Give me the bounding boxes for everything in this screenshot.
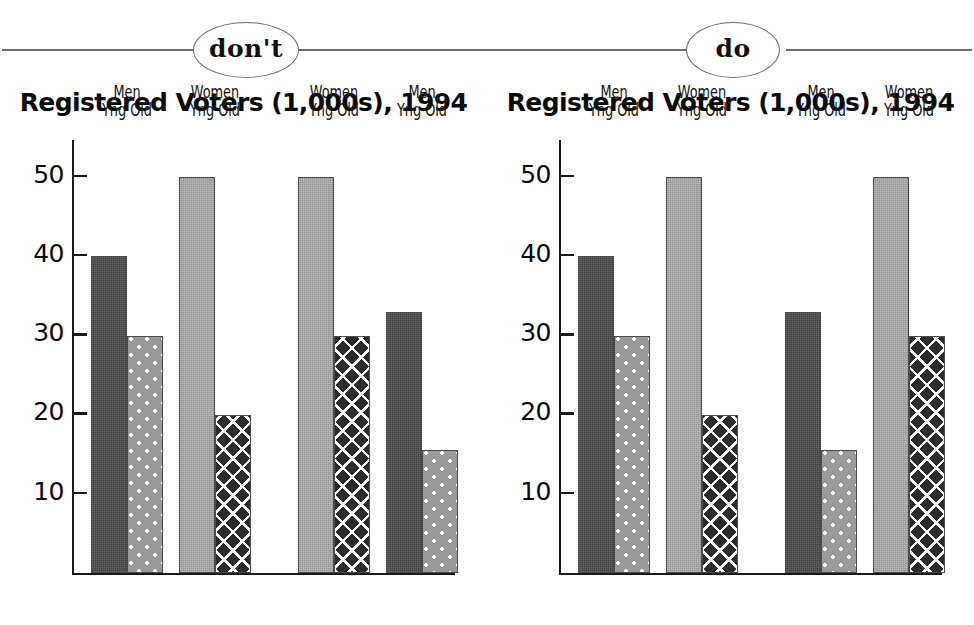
x-axis [72,573,455,575]
cluster-age-label: Yng Old [565,102,662,120]
rule-segment-left [2,49,198,51]
bar [298,177,334,572]
y-axis-tick-label: 20 [520,397,551,426]
y-axis-tick-label: 30 [520,318,551,347]
cluster-age-label: Yng Old [166,102,263,120]
y-axis-tick: 50 [561,175,574,177]
cluster-header: MenYng Old [772,84,869,120]
cluster-age-label: Yng Old [860,102,957,120]
rule-segment-right [786,49,972,51]
bar [127,336,163,573]
cluster-header: WomenYng Old [653,84,750,120]
cluster-age-label: Yng Old [373,102,470,120]
y-axis [72,140,74,575]
y-axis-tick: 30 [74,333,87,335]
y-axis-tick: 10 [74,492,87,494]
y-axis-tick-label: 30 [33,318,64,347]
cluster-age-label: Yng Old [285,102,382,120]
cluster-header: WomenYng Old [285,84,382,120]
cluster-age-label: Yng Old [653,102,750,120]
bar [334,336,370,573]
y-axis-tick-label: 40 [33,239,64,268]
y-axis-tick-label: 50 [520,160,551,189]
plot-area: 1020304050MenYng OldWomenYng OldRaintree… [559,140,942,575]
rule-segment-middle [296,49,688,51]
bar [614,336,650,573]
cluster-header: WomenYng Old [166,84,263,120]
bar [785,312,821,573]
y-axis-tick: 50 [74,175,87,177]
bar [215,415,251,573]
cluster-header: WomenYng Old [860,84,957,120]
bar [702,415,738,573]
y-axis-tick: 30 [561,333,574,335]
bar [909,336,945,573]
bar [422,450,458,573]
y-axis-tick-label: 10 [33,476,64,505]
comparison-banner: don't do [0,0,974,78]
do-badge-label: do [715,36,750,64]
dont-badge-label: don't [209,36,283,64]
y-axis-tick: 40 [74,254,87,256]
y-axis-tick-label: 20 [33,397,64,426]
cluster-header: MenYng Old [565,84,662,120]
y-axis-tick-label: 40 [520,239,551,268]
plot-area: 1020304050MenYng OldWomenYng OldRaintree… [72,140,455,575]
y-axis-tick-label: 10 [520,476,551,505]
y-axis-tick: 20 [561,412,574,414]
bar [91,256,127,572]
x-axis [559,573,942,575]
bar [821,450,857,573]
cluster-age-label: Yng Old [78,102,175,120]
y-axis [559,140,561,575]
bar [179,177,215,572]
y-axis-tick: 40 [561,254,574,256]
dont-badge: don't [193,22,299,78]
chart-panel-do: Registered Voters (1,000s), 1994 1020304… [487,78,974,625]
bar [386,312,422,573]
do-badge: do [686,22,780,78]
bar [873,177,909,572]
cluster-age-label: Yng Old [772,102,869,120]
bar [578,256,614,572]
cluster-header: MenYng Old [373,84,470,120]
y-axis-tick: 20 [74,412,87,414]
y-axis-tick-label: 50 [33,160,64,189]
y-axis-tick: 10 [561,492,574,494]
cluster-header: MenYng Old [78,84,175,120]
chart-panel-dont: Registered Voters (1,000s), 1994 1020304… [0,78,487,625]
bar [666,177,702,572]
